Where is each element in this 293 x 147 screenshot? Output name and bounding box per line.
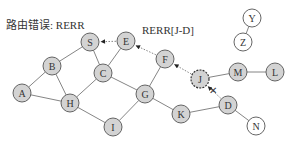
svg-text:C: C [100, 68, 107, 79]
edge-S-C [93, 50, 99, 64]
edge-H-I [78, 107, 105, 122]
node-J: J [191, 70, 209, 88]
svg-text:G: G [141, 89, 148, 100]
svg-text:N: N [252, 121, 259, 132]
node-D: D [219, 96, 237, 114]
node-G: G [136, 85, 154, 103]
node-N: N [247, 117, 265, 135]
edge-C-H [77, 79, 97, 97]
edge-B-H [56, 74, 66, 95]
svg-text:S: S [87, 37, 93, 48]
edge-C-G [111, 77, 137, 90]
svg-text:B: B [49, 61, 56, 72]
edge-G-F [149, 67, 160, 86]
node-I: I [104, 118, 122, 136]
node-Y: Y [243, 9, 261, 27]
broken-link-icon: ✕ [209, 85, 217, 96]
svg-text:Y: Y [248, 13, 255, 24]
svg-text:A: A [18, 88, 26, 99]
svg-text:M: M [234, 67, 243, 78]
svg-text:L: L [272, 67, 278, 78]
edge-A-H [31, 95, 61, 101]
svg-text:H: H [66, 98, 73, 109]
svg-text:D: D [224, 100, 231, 111]
rerr-arrow-F-E [136, 46, 156, 55]
node-K: K [172, 105, 190, 123]
edge-K-D [190, 107, 219, 113]
rerr-arrow-J-F [175, 64, 192, 74]
node-S: S [81, 33, 99, 51]
edge-G-K [153, 98, 173, 109]
edge-B-S [60, 47, 83, 61]
svg-text:E: E [123, 36, 129, 47]
edge-Y-Z [246, 26, 249, 33]
node-B: B [43, 57, 61, 75]
svg-text:F: F [162, 54, 168, 65]
svg-text:K: K [177, 109, 185, 120]
edge-D-N [235, 110, 249, 120]
node-M: M [229, 63, 247, 81]
node-Z: Z [234, 33, 252, 51]
edge-I-G [119, 100, 138, 120]
edge-A-B [29, 72, 46, 87]
node-F: F [156, 50, 174, 68]
node-C: C [94, 64, 112, 82]
node-L: L [266, 63, 284, 81]
edge-C-E [108, 48, 120, 65]
node-A: A [13, 84, 31, 102]
svg-text:J: J [198, 74, 202, 85]
node-E: E [117, 32, 135, 50]
edge-J-M [209, 74, 229, 78]
svg-text:Z: Z [240, 37, 246, 48]
svg-text:I: I [111, 122, 114, 133]
node-H: H [61, 94, 79, 112]
network-graph: ✕ABHSECFGIKJMLDNYZ [0, 0, 293, 147]
